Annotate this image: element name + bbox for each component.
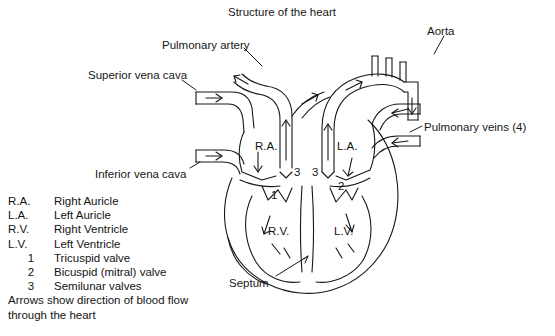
label-right-auricle: R.A. <box>255 140 277 152</box>
legend-key: 3 <box>8 279 54 293</box>
legend-key: 2 <box>8 265 54 279</box>
legend-note-line-1: Arrows show direction of blood flow <box>8 294 188 308</box>
septum-leader <box>276 256 308 276</box>
av-division-right <box>330 178 370 187</box>
label-pulmonary-veins: Pulmonary veins (4) <box>424 121 526 134</box>
left-ventricle-cavity <box>316 196 371 282</box>
legend-row: L.V. Left Ventricle <box>8 237 188 251</box>
legend-row: R.A. Right Auricle <box>8 194 188 208</box>
label-inferior-vena-cava: Inferior vena cava <box>95 168 186 181</box>
semilunar-valve-left <box>322 172 334 178</box>
legend-row: L.A. Left Auricle <box>8 208 188 222</box>
legend-note-line-2: through the heart <box>8 309 188 323</box>
legend-value: Left Ventricle <box>54 237 188 251</box>
right-ventricle-cavity <box>246 196 300 282</box>
legend-row: 1 Tricuspid valve <box>8 251 188 265</box>
valve-number-1: 1 <box>271 189 277 201</box>
valve-number-3-right: 3 <box>294 166 300 178</box>
semilunar-valve-right <box>280 172 292 178</box>
legend-value: Semilunar valves <box>54 279 188 293</box>
legend-row: R.V. Right Ventricle <box>8 222 188 236</box>
legend-value: Right Ventricle <box>54 222 188 236</box>
av-division-left <box>240 180 280 187</box>
label-pulmonary-artery: Pulmonary artery <box>162 39 250 52</box>
legend-row: 3 Semilunar valves <box>8 279 188 293</box>
pulmonary-veins-leader <box>410 126 422 132</box>
legend-key: R.V. <box>8 222 54 236</box>
legend-key: R.A. <box>8 194 54 208</box>
inferior-vena-cava-leader <box>190 162 200 168</box>
page-title: Structure of the heart <box>228 6 336 19</box>
label-septum: Septum <box>229 277 269 290</box>
legend-key: L.V. <box>8 237 54 251</box>
label-superior-vena-cava: Superior vena cava <box>88 69 187 82</box>
legend-value: Left Auricle <box>54 208 188 222</box>
pulmonary-artery-vessel <box>258 94 280 168</box>
legend-value: Bicuspid (mitral) valve <box>54 265 188 279</box>
legend-key: 1 <box>8 251 54 265</box>
septum-wall <box>301 186 303 272</box>
legend: R.A. Right Auricle L.A. Left Auricle R.V… <box>8 194 188 322</box>
valve-number-2: 2 <box>338 180 344 192</box>
legend-value: Right Auricle <box>54 194 188 208</box>
superior-vena-cava-vessel <box>196 92 254 128</box>
legend-row: 2 Bicuspid (mitral) valve <box>8 265 188 279</box>
label-left-ventricle: L.V. <box>334 225 353 237</box>
label-right-ventricle: R.V. <box>268 225 289 237</box>
legend-value: Tricuspid valve <box>54 251 188 265</box>
aorta-leader <box>434 36 444 54</box>
blood-flow-arrows <box>206 75 416 234</box>
left-atrium-wall <box>336 124 375 180</box>
valve-number-3-left: 3 <box>312 166 318 178</box>
label-aorta: Aorta <box>427 25 455 38</box>
label-left-auricle: L.A. <box>337 140 357 152</box>
heart-outline <box>225 120 398 293</box>
legend-key: L.A. <box>8 208 54 222</box>
